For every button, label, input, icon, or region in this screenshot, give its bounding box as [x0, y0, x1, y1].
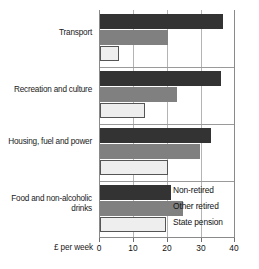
category-label-food: Food and non-alcoholic drinks	[0, 194, 92, 213]
bar-recreation-other-retired	[100, 87, 177, 102]
bar-transport-state-pension	[100, 46, 119, 61]
category-axis-labels: Transport Recreation and culture Housing…	[0, 10, 95, 238]
x-axis: 0 10 20 30 40	[99, 238, 235, 260]
category-label-transport: Transport	[0, 28, 92, 38]
x-tick-label-10: 10	[128, 243, 137, 253]
bar-transport-other-retired	[100, 30, 168, 45]
category-label-housing: Housing, fuel and power	[0, 137, 92, 147]
x-tick-40	[234, 238, 235, 242]
category-label-recreation: Recreation and culture	[0, 85, 92, 95]
x-tick-10	[133, 238, 134, 242]
x-tick-20	[167, 238, 168, 242]
x-tick-label-20: 20	[162, 243, 171, 253]
legend-label-other-retired: Other retired	[173, 201, 219, 211]
bar-chart: Transport Recreation and culture Housing…	[0, 0, 259, 269]
group-separator-2	[100, 124, 234, 125]
legend-item-state-pension: State pension	[173, 214, 223, 230]
x-tick-30	[201, 238, 202, 242]
bar-housing-state-pension	[100, 160, 168, 175]
bar-recreation-state-pension	[100, 103, 145, 118]
bar-housing-other-retired	[100, 144, 200, 159]
group-separator-1	[100, 67, 234, 68]
legend-item-non-retired: Non-retired	[173, 182, 214, 198]
bar-recreation-non-retired	[100, 71, 221, 86]
x-tick-label-30: 30	[196, 243, 205, 253]
legend-item-other-retired: Other retired	[173, 198, 219, 214]
legend-label-non-retired: Non-retired	[173, 185, 214, 195]
chart-legend: Non-retired Other retired State pension	[99, 182, 259, 236]
bar-housing-non-retired	[100, 128, 211, 143]
legend-label-state-pension: State pension	[173, 217, 223, 227]
x-tick-label-0: 0	[97, 243, 102, 253]
bar-transport-non-retired	[100, 14, 223, 29]
x-axis-title: £ per week	[0, 243, 93, 252]
x-tick-0	[99, 238, 100, 242]
x-tick-label-40: 40	[229, 243, 238, 253]
